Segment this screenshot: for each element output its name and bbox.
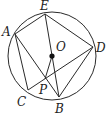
segment-ac (15, 34, 28, 90)
label-b: B (54, 102, 64, 116)
label-o: O (56, 40, 66, 54)
label-a: A (1, 25, 11, 39)
label-e: E (39, 0, 49, 13)
label-p: P (38, 83, 48, 97)
segment-db (59, 47, 93, 97)
center-dot-o (49, 53, 54, 58)
geometry-diagram: A E D O C B P (0, 0, 108, 117)
label-d: D (95, 41, 106, 55)
segment-op (45, 56, 52, 79)
segment-ed (45, 14, 93, 47)
segment-ae (15, 14, 45, 34)
label-c: C (17, 95, 26, 109)
